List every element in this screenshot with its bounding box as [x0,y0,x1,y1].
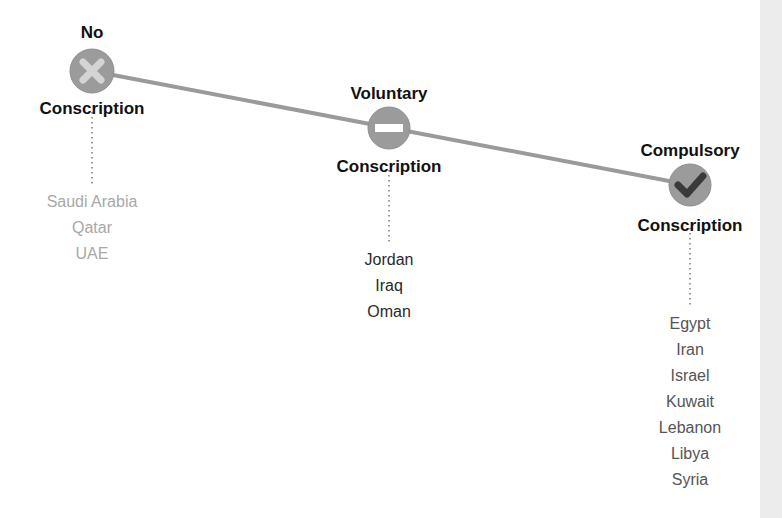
node-title-bottom-compulsory: Conscription [610,216,770,236]
country-item: UAE [12,241,172,267]
country-item: Qatar [12,215,172,241]
country-list-no: Saudi Arabia Qatar UAE [12,189,172,267]
node-title-top-voluntary: Voluntary [309,84,469,104]
country-item: Israel [610,363,770,389]
minus-icon [375,124,403,132]
country-item: Lebanon [610,415,770,441]
country-item: Kuwait [610,389,770,415]
node-no [70,49,114,93]
country-list-compulsory: Egypt Iran Israel Kuwait Lebanon Libya S… [610,311,770,493]
node-voluntary [368,107,410,149]
country-item: Jordan [309,247,469,273]
node-compulsory [669,164,711,206]
country-item: Saudi Arabia [12,189,172,215]
country-item: Oman [309,299,469,325]
node-title-top-no: No [12,23,172,43]
country-item: Iran [610,337,770,363]
node-title-bottom-voluntary: Conscription [309,157,469,177]
country-item: Libya [610,441,770,467]
country-item: Iraq [309,273,469,299]
country-item: Egypt [610,311,770,337]
country-list-voluntary: Jordan Iraq Oman [309,247,469,325]
node-title-top-compulsory: Compulsory [610,141,770,161]
node-title-bottom-no: Conscription [12,99,172,119]
country-item: Syria [610,467,770,493]
